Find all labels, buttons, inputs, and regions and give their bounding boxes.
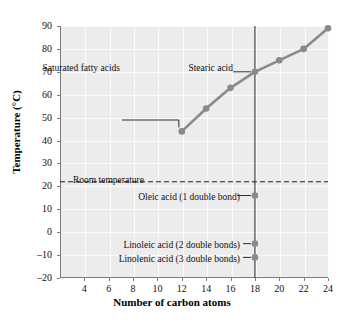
data-point-marker (252, 240, 259, 247)
data-point-marker (203, 105, 210, 112)
data-layer (0, 0, 344, 326)
leader-saturated-fatty-acids (122, 120, 179, 127)
data-point-marker (300, 46, 307, 53)
annotation-room-temperature: Room temperature (73, 175, 144, 186)
annotation-stearic-acid: Stearic acid (0, 63, 233, 74)
data-point-marker (252, 192, 259, 199)
fatty-acid-melting-point-chart: 4681012141618202224 9080706050403020100–… (0, 0, 344, 326)
annotation-oleic-acid: Oleic acid (1 double bond) (0, 192, 240, 203)
data-point-marker (252, 254, 259, 261)
y-axis-title: Temperature (°C) (10, 62, 22, 202)
data-point-marker (227, 85, 234, 92)
annotation-linolenic-acid: Linolenic acid (3 double bonds) (0, 254, 240, 265)
data-point-marker (325, 25, 332, 32)
annotation-linoleic-acid: Linoleic acid (2 double bonds) (0, 240, 240, 251)
data-point-marker (276, 57, 283, 64)
data-point-marker (179, 128, 186, 135)
x-axis-title: Number of carbon atoms (0, 296, 344, 308)
data-point-marker (252, 69, 259, 76)
